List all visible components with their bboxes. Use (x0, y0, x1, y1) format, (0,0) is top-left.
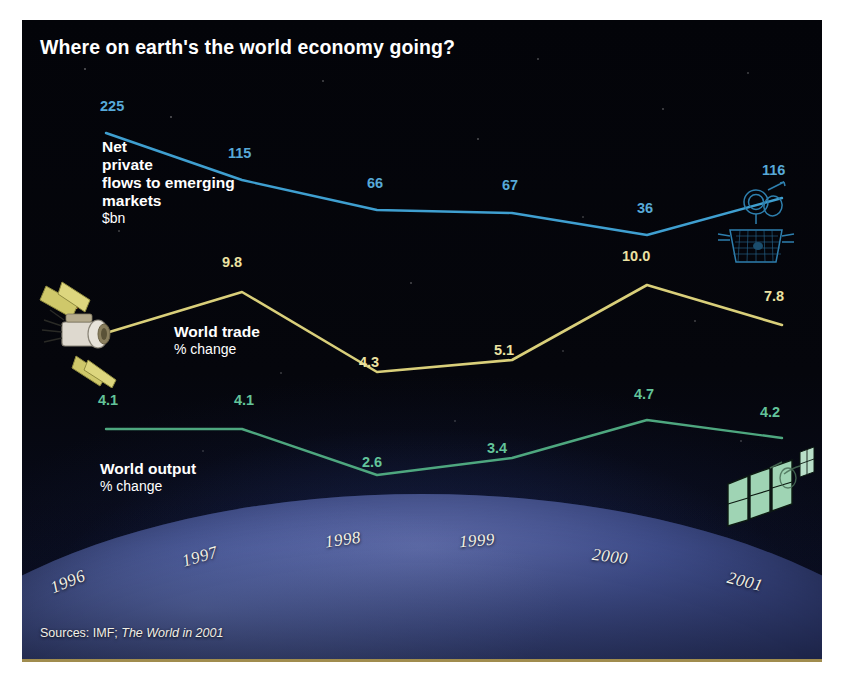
value-label-blue-1998: 66 (367, 175, 383, 191)
caption-line-2: private (102, 156, 235, 174)
year-label-2000: 2000 (591, 545, 629, 569)
caption-title: World output (100, 460, 196, 478)
series-line-world-output (106, 420, 782, 475)
source-publication: The World in 2001 (121, 626, 223, 640)
infographic-page: Where on earth's the world economy going… (0, 0, 865, 693)
caption-unit: $bn (102, 210, 235, 227)
value-label-blue-1999: 67 (502, 177, 518, 193)
year-label-1999: 1999 (458, 530, 495, 552)
chart-frame: Where on earth's the world economy going… (22, 20, 822, 662)
value-label-gold-1999: 5.1 (494, 342, 514, 358)
source-note: Sources: IMF; The World in 2001 (40, 626, 223, 640)
satellite-dish-icon (710, 178, 802, 270)
value-label-green-1999: 3.4 (487, 440, 507, 456)
value-label-green-1997: 4.1 (234, 392, 254, 408)
value-label-gold-1998: 4.3 (359, 354, 379, 370)
value-label-gold-2001: 7.8 (764, 288, 784, 304)
series-caption-world-trade: World trade % change (174, 323, 260, 358)
source-prefix: Sources: IMF; (40, 626, 118, 640)
caption-unit: % change (174, 341, 260, 358)
bottom-rule (22, 659, 822, 662)
value-label-blue-2000: 36 (637, 200, 653, 216)
caption-title: World trade (174, 323, 260, 341)
value-label-blue-2001: 116 (762, 162, 785, 178)
caption-line-1: Net (102, 138, 235, 156)
value-label-green-2000: 4.7 (634, 386, 654, 402)
caption-unit: % change (100, 478, 196, 495)
value-label-blue-1996: 225 (100, 98, 124, 114)
series-caption-net-private-flows: Net private flows to emerging markets $b… (102, 138, 235, 227)
caption-line-3: flows to emerging (102, 174, 235, 192)
value-label-gold-2000: 10.0 (622, 248, 650, 264)
caption-line-4: markets (102, 192, 235, 210)
series-caption-world-output: World output % change (100, 460, 196, 495)
satellite-icon (32, 278, 152, 388)
value-label-green-1998: 2.6 (362, 454, 382, 470)
value-label-gold-1997: 9.8 (222, 254, 242, 270)
value-label-green-1996: 4.1 (98, 392, 118, 408)
solar-panel-icon (722, 438, 822, 538)
value-label-green-2001: 4.2 (760, 404, 780, 420)
